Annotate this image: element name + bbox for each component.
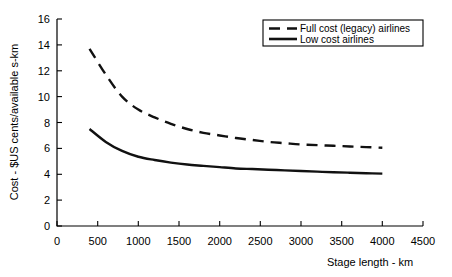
legend-label: Low cost airlines (300, 34, 374, 45)
y-tick-label: 16 (38, 13, 50, 25)
line-chart: 0 2 4 6 8 10 12 14 16 0 500 1000 (0, 0, 452, 277)
y-tick-label: 6 (44, 142, 50, 154)
y-tick-label: 8 (44, 117, 50, 129)
x-tick-label: 2500 (248, 235, 272, 247)
x-tick-label: 4000 (370, 235, 394, 247)
series-line-full-cost (90, 49, 383, 148)
series-line-low-cost (90, 129, 383, 174)
y-tick-label: 0 (44, 220, 50, 232)
x-axis-ticks (57, 221, 423, 226)
x-axis-title: Stage length - km (327, 256, 413, 268)
legend: Full cost (legacy) airlines Low cost air… (263, 20, 423, 46)
x-tick-label: 2000 (207, 235, 231, 247)
y-tick-label: 12 (38, 65, 50, 77)
y-axis-ticks (57, 19, 62, 226)
x-tick-label: 1000 (126, 235, 150, 247)
y-tick-label: 14 (38, 39, 50, 51)
x-axis-tick-labels: 0 500 1000 1500 2000 2500 3000 3500 4000… (54, 235, 435, 247)
y-tick-label: 2 (44, 194, 50, 206)
x-tick-label: 3000 (289, 235, 313, 247)
y-tick-label: 10 (38, 91, 50, 103)
x-tick-label: 1500 (167, 235, 191, 247)
chart-container: 0 2 4 6 8 10 12 14 16 0 500 1000 (0, 0, 452, 277)
y-axis-title: Cost - $US cents/available s-km (8, 44, 20, 201)
y-axis-tick-labels: 0 2 4 6 8 10 12 14 16 (38, 13, 50, 232)
x-tick-label: 0 (54, 235, 60, 247)
axis-frame (57, 19, 423, 226)
y-tick-label: 4 (44, 168, 50, 180)
x-tick-label: 3500 (329, 235, 353, 247)
x-tick-label: 500 (89, 235, 107, 247)
legend-label: Full cost (legacy) airlines (300, 23, 410, 34)
x-tick-label: 4500 (411, 235, 435, 247)
